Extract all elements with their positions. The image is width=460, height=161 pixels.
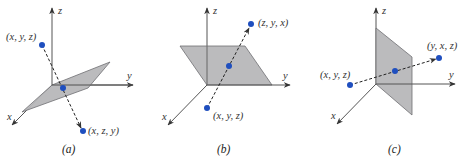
caption-a: (a)	[62, 143, 76, 156]
x-axis-label: x	[6, 111, 12, 122]
reflection-plane	[22, 62, 110, 112]
y-axis-label: y	[448, 69, 454, 80]
start-point-label: (x, y, z)	[213, 110, 244, 122]
caption-b: (b)	[217, 143, 231, 156]
z-axis-label: z	[212, 5, 217, 16]
start-point	[347, 82, 353, 88]
reflection-figure: z y x (x, y, z) (x, z, y) (a) z y x (x, …	[0, 0, 460, 161]
panel-b: z y x (x, y, z) (z, y, x) (b)	[161, 5, 290, 156]
z-axis-label: z	[381, 5, 386, 16]
start-point-label: (x, y, z)	[6, 31, 37, 43]
reflected-point	[436, 55, 442, 61]
panel-a: z y x (x, y, z) (x, z, y) (a)	[6, 5, 133, 156]
y-axis-label: y	[126, 70, 132, 81]
plane-point	[392, 68, 398, 74]
x-axis	[168, 85, 207, 125]
x-axis-label: x	[330, 110, 336, 121]
reflected-point	[248, 21, 254, 27]
reflected-point-label: (x, z, y)	[88, 125, 119, 137]
reflected-point-label: (y, x, z)	[427, 40, 458, 52]
start-point-label: (x, y, z)	[320, 69, 351, 81]
start-point	[39, 42, 45, 48]
reflected-point-label: (z, y, x)	[258, 17, 289, 29]
y-axis-label: y	[282, 70, 288, 81]
z-axis-label: z	[57, 5, 62, 16]
caption-c: (c)	[388, 143, 401, 156]
plane-point	[226, 63, 232, 69]
panel-c: z y x (x, y, z) (y, x, z) (c)	[320, 5, 458, 156]
reflected-point	[80, 128, 86, 134]
reflection-plane	[180, 46, 272, 85]
x-axis-label: x	[161, 111, 167, 122]
plane-point	[60, 85, 66, 91]
start-point	[204, 105, 210, 111]
x-axis	[337, 84, 376, 124]
